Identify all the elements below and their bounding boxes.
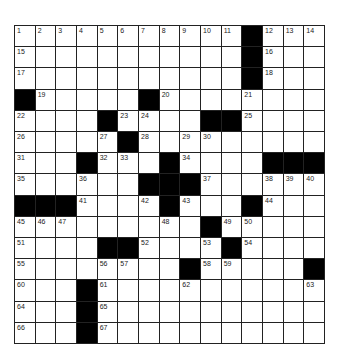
grid-cell[interactable] xyxy=(77,90,97,110)
grid-cell[interactable]: 20 xyxy=(160,90,180,110)
grid-cell[interactable] xyxy=(98,174,118,194)
grid-cell[interactable] xyxy=(118,217,138,237)
grid-cell[interactable]: 4 xyxy=(77,26,97,46)
grid-cell[interactable] xyxy=(56,174,76,194)
grid-cell[interactable]: 34 xyxy=(180,153,200,173)
grid-cell[interactable] xyxy=(180,302,200,322)
grid-cell[interactable] xyxy=(160,111,180,131)
grid-cell[interactable] xyxy=(201,90,221,110)
grid-cell[interactable] xyxy=(263,259,283,279)
grid-cell[interactable] xyxy=(201,302,221,322)
grid-cell[interactable] xyxy=(201,47,221,67)
grid-cell[interactable] xyxy=(56,153,76,173)
grid-cell[interactable]: 66 xyxy=(15,323,35,343)
grid-cell[interactable] xyxy=(263,217,283,237)
grid-cell[interactable] xyxy=(36,302,56,322)
grid-cell[interactable]: 8 xyxy=(160,26,180,46)
grid-cell[interactable] xyxy=(222,132,242,152)
grid-cell[interactable]: 64 xyxy=(15,302,35,322)
grid-cell[interactable]: 22 xyxy=(15,111,35,131)
grid-cell[interactable] xyxy=(77,47,97,67)
grid-cell[interactable]: 45 xyxy=(15,217,35,237)
grid-cell[interactable] xyxy=(284,111,304,131)
grid-cell[interactable]: 7 xyxy=(139,26,159,46)
grid-cell[interactable] xyxy=(242,259,262,279)
grid-cell[interactable]: 11 xyxy=(222,26,242,46)
grid-cell[interactable]: 43 xyxy=(180,196,200,216)
grid-cell[interactable] xyxy=(284,47,304,67)
grid-cell[interactable]: 65 xyxy=(98,302,118,322)
grid-cell[interactable]: 51 xyxy=(15,238,35,258)
grid-cell[interactable] xyxy=(77,259,97,279)
grid-cell[interactable] xyxy=(98,217,118,237)
grid-cell[interactable] xyxy=(263,302,283,322)
grid-cell[interactable]: 5 xyxy=(98,26,118,46)
grid-cell[interactable]: 28 xyxy=(139,132,159,152)
grid-cell[interactable] xyxy=(222,174,242,194)
grid-cell[interactable]: 49 xyxy=(222,217,242,237)
grid-cell[interactable]: 27 xyxy=(98,132,118,152)
grid-cell[interactable]: 15 xyxy=(15,47,35,67)
grid-cell[interactable] xyxy=(304,47,324,67)
grid-cell[interactable] xyxy=(222,196,242,216)
grid-cell[interactable]: 24 xyxy=(139,111,159,131)
grid-cell[interactable] xyxy=(139,153,159,173)
grid-cell[interactable]: 12 xyxy=(263,26,283,46)
grid-cell[interactable]: 13 xyxy=(284,26,304,46)
grid-cell[interactable] xyxy=(284,68,304,88)
grid-cell[interactable] xyxy=(139,47,159,67)
grid-cell[interactable] xyxy=(263,132,283,152)
grid-cell[interactable]: 48 xyxy=(160,217,180,237)
grid-cell[interactable] xyxy=(56,90,76,110)
grid-cell[interactable] xyxy=(263,90,283,110)
grid-cell[interactable] xyxy=(160,302,180,322)
grid-cell[interactable] xyxy=(304,132,324,152)
grid-cell[interactable] xyxy=(222,47,242,67)
grid-cell[interactable] xyxy=(160,132,180,152)
grid-cell[interactable] xyxy=(36,132,56,152)
grid-cell[interactable] xyxy=(77,217,97,237)
grid-cell[interactable] xyxy=(77,68,97,88)
grid-cell[interactable]: 32 xyxy=(98,153,118,173)
grid-cell[interactable]: 58 xyxy=(201,259,221,279)
grid-cell[interactable]: 41 xyxy=(77,196,97,216)
grid-cell[interactable] xyxy=(242,132,262,152)
grid-cell[interactable] xyxy=(118,323,138,343)
grid-cell[interactable] xyxy=(284,280,304,300)
grid-cell[interactable]: 62 xyxy=(180,280,200,300)
grid-cell[interactable] xyxy=(284,217,304,237)
grid-cell[interactable] xyxy=(118,196,138,216)
grid-cell[interactable] xyxy=(36,280,56,300)
grid-cell[interactable] xyxy=(304,90,324,110)
grid-cell[interactable] xyxy=(36,259,56,279)
grid-cell[interactable] xyxy=(180,323,200,343)
grid-cell[interactable] xyxy=(304,196,324,216)
grid-cell[interactable] xyxy=(77,132,97,152)
grid-cell[interactable] xyxy=(139,68,159,88)
grid-cell[interactable]: 23 xyxy=(118,111,138,131)
grid-cell[interactable] xyxy=(118,302,138,322)
grid-cell[interactable] xyxy=(222,323,242,343)
grid-cell[interactable] xyxy=(284,90,304,110)
grid-cell[interactable]: 67 xyxy=(98,323,118,343)
grid-cell[interactable]: 55 xyxy=(15,259,35,279)
grid-cell[interactable] xyxy=(222,302,242,322)
grid-cell[interactable]: 46 xyxy=(36,217,56,237)
grid-cell[interactable] xyxy=(118,174,138,194)
grid-cell[interactable]: 19 xyxy=(36,90,56,110)
grid-cell[interactable]: 44 xyxy=(263,196,283,216)
grid-cell[interactable] xyxy=(304,302,324,322)
grid-cell[interactable] xyxy=(56,238,76,258)
grid-cell[interactable] xyxy=(201,196,221,216)
grid-cell[interactable] xyxy=(284,196,304,216)
grid-cell[interactable]: 50 xyxy=(242,217,262,237)
grid-cell[interactable]: 26 xyxy=(15,132,35,152)
grid-cell[interactable]: 53 xyxy=(201,238,221,258)
grid-cell[interactable] xyxy=(263,111,283,131)
grid-cell[interactable] xyxy=(201,280,221,300)
grid-cell[interactable] xyxy=(242,280,262,300)
grid-cell[interactable] xyxy=(284,302,304,322)
grid-cell[interactable]: 18 xyxy=(263,68,283,88)
grid-cell[interactable] xyxy=(98,47,118,67)
grid-cell[interactable]: 30 xyxy=(201,132,221,152)
